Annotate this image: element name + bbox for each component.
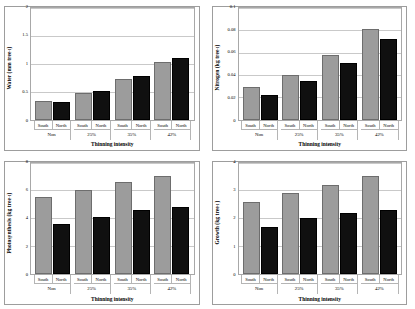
bar-group [320,8,360,120]
category-label-south: South [241,121,260,130]
group-label-cell: Non [32,284,72,294]
bar-group [33,163,73,275]
y-axis-tick-label: 0.08 [227,27,235,32]
category-group: SouthNorth [32,275,72,284]
group-label-row: Non25%35%42% [213,284,407,294]
bar-south [35,101,52,119]
y-axis-tick-label: 0 [233,118,235,123]
bar-south [282,193,299,274]
category-label-north: North [92,275,111,284]
group-row-spacer [5,284,30,294]
bar-north [300,218,317,274]
category-cells: SouthNorthSouthNorthSouthNorthSouthNorth [238,275,403,284]
chart-panel-water: Water (mm tree-1) 00.511.52 SouthNorthSo… [0,0,208,155]
y-axis-tick-label: 0 [26,118,28,123]
bars-container [31,163,194,275]
category-cells: SouthNorthSouthNorthSouthNorthSouthNorth [30,275,195,284]
bar-north [340,213,357,274]
panel-frame: Growth (kg tree-1) 01234 SouthNorthSouth… [212,161,408,306]
category-label-south: South [154,121,173,130]
y-axis-title: Growth (kg tree-1) [213,162,222,276]
category-label-north: North [340,121,359,130]
bar-group [112,163,152,275]
bar-north [172,207,189,274]
category-label-south: South [154,275,173,284]
y-axis-tick-label: 0.5 [22,90,28,95]
bar-north [133,76,150,120]
y-axis-ticks: 00.020.040.060.080.1 [222,7,238,121]
y-axis-tick-label: 1.5 [22,33,28,38]
group-label-row: Non25%35%42% [5,284,199,294]
category-label-south: South [281,121,300,130]
bar-group [241,8,281,120]
group-label-text: Non [34,284,71,294]
group-label-row: Non25%35%42% [5,130,199,140]
y-axis-tick-label: 3 [233,188,235,193]
category-label-north: North [300,121,319,130]
y-axis-title: Nitrogen (kg tree-1) [213,7,222,121]
category-label-north: North [340,275,359,284]
bar-group [359,8,399,120]
bar-group [280,8,320,120]
y-axis-tick-label: 0.02 [227,96,235,101]
group-label-text: 42% [154,284,191,294]
bar-north [261,227,278,274]
bars-container [239,8,402,120]
y-axis-ticks: 00.511.52 [14,7,30,121]
category-group: SouthNorth [360,275,400,284]
group-row-spacer [5,130,30,140]
y-axis-title-tail: ) [7,46,12,48]
bar-group [112,8,152,120]
category-label-row: SouthNorthSouthNorthSouthNorthSouthNorth [213,121,407,130]
group-label-cell: 42% [360,284,400,294]
category-label-row: SouthNorthSouthNorthSouthNorthSouthNorth [5,275,199,284]
group-label-text: 42% [361,130,398,140]
bar-south [243,202,260,275]
category-group: SouthNorth [320,121,360,130]
y-axis-ticks: 02468 [14,162,30,276]
bar-south [362,176,379,274]
bar-north [261,95,278,120]
category-label-north: North [260,275,278,284]
category-group: SouthNorth [360,121,400,130]
group-label-cell: Non [32,130,72,140]
bar-north [53,102,70,119]
category-label-south: South [74,275,93,284]
plot-row: Photosynthesis (kg tree-1) 02468 [5,162,199,276]
plot-row: Nitrogen (kg tree-1) 00.020.040.060.080.… [213,7,407,121]
bar-north [380,39,397,119]
bar-north [172,58,189,120]
group-label-cell: 42% [152,284,192,294]
bar-north [53,224,70,274]
y-axis-tick-label: 6 [26,188,28,193]
group-cells: Non25%35%42% [30,130,195,140]
y-axis-tick-label: 2 [26,244,28,249]
category-label-south: South [321,121,340,130]
y-axis-tick-label: 4 [233,159,235,164]
category-group: SouthNorth [152,275,192,284]
x-axis-title: Thinning intensity [30,140,195,150]
group-label-text: Non [241,130,278,140]
group-row-spacer [213,130,238,140]
category-label-south: South [74,121,93,130]
plot-area [238,162,403,276]
bar-group [320,163,360,275]
group-label-text: Non [241,284,278,294]
bar-south [282,75,299,120]
bars-container [31,8,194,120]
bar-group [73,163,113,275]
category-label-north: North [380,275,399,284]
category-group: SouthNorth [112,121,152,130]
y-axis-title-tail: ) [7,192,12,194]
chart-panel-photosynthesis: Photosynthesis (kg tree-1) 02468 SouthNo… [0,155,208,309]
group-label-cell: 25% [72,284,112,294]
category-group: SouthNorth [240,121,280,130]
group-label-text: 35% [114,130,151,140]
y-axis-title-tail: ) [214,45,219,47]
y-axis-tick-label: 2 [26,5,28,10]
panel-frame: Water (mm tree-1) 00.511.52 SouthNorthSo… [4,6,200,151]
group-label-text: 25% [74,284,111,294]
group-cells: Non25%35%42% [238,130,403,140]
category-label-south: South [361,121,380,130]
category-group: SouthNorth [72,121,112,130]
